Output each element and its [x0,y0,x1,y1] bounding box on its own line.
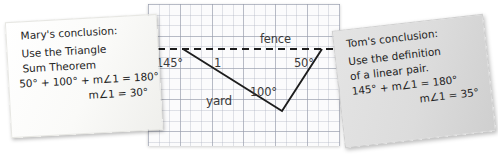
angle-100-label: 100° [250,85,277,99]
angle-1-label: 1 [214,56,221,70]
angle-50-label: 50° [294,56,314,70]
angle-145-label: 145° [156,56,183,70]
diagram-svg [148,4,340,146]
fence-label: fence [260,32,291,46]
graph-paper-panel: fence 145° 1 50° 100° yard [148,4,340,146]
yard-label: yard [206,94,232,108]
scene-canvas: fence 145° 1 50° 100° yard Mary's conclu… [0,0,498,157]
tom-conclusion-note: Tom's conclusion: Use the definition of … [332,14,496,148]
mary-conclusion-note: Mary's conclusion: Use the Triangle Sum … [5,14,163,138]
